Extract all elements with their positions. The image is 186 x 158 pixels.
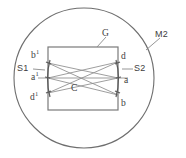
optical-diagram-figure: M2 G S1 S2 C b1 a1 d1 d a b xyxy=(0,0,186,158)
label-b: b xyxy=(121,99,126,109)
label-grating-g: G xyxy=(102,29,109,39)
label-a: a xyxy=(124,76,128,86)
diagram-canvas xyxy=(0,0,186,158)
grating-rectangle xyxy=(48,47,118,110)
label-a-prime-sup: 1 xyxy=(35,70,38,77)
ray-d1-to-d xyxy=(48,62,118,93)
leader-line-grating xyxy=(97,37,106,47)
label-d-prime-sup: 1 xyxy=(35,90,38,97)
label-b-prime-sup: 1 xyxy=(36,48,39,55)
label-b-prime: b1 xyxy=(31,51,39,61)
label-mirror-m2: M2 xyxy=(155,30,168,39)
label-a-prime: a1 xyxy=(31,73,39,83)
label-center-c: C xyxy=(71,84,78,94)
label-d-prime: d1 xyxy=(30,93,38,103)
label-slit-s1: S1 xyxy=(17,64,28,73)
ray-b1-to-b xyxy=(48,63,118,95)
label-slit-s2: S2 xyxy=(134,64,145,73)
label-d: d xyxy=(121,52,126,62)
leader-line-m2 xyxy=(146,38,160,50)
